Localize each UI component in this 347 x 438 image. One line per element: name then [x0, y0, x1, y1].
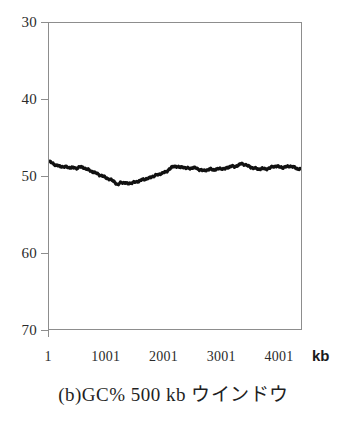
figure-caption: (b)GC% 500 kb ウインドウ — [0, 382, 347, 408]
x-axis-unit-label: kb — [312, 346, 330, 366]
x-axis-tick-label: 4001 — [244, 348, 314, 366]
y-axis-tick-mark — [41, 253, 48, 254]
plot-area — [48, 22, 302, 330]
y-axis-tick-mark — [41, 99, 48, 100]
gc-content-figure: 7060504030 11001200130014001 kb (b)GC% 5… — [0, 0, 347, 438]
x-axis-tick-mark — [48, 330, 49, 337]
gc-percent-line-series — [49, 23, 301, 329]
y-axis-tick-mark — [41, 330, 48, 331]
y-axis-tick-mark — [41, 176, 48, 177]
y-axis-tick-mark — [41, 22, 48, 23]
